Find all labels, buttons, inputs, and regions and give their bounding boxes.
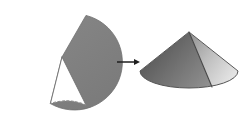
sector-to-cone-figure (0, 0, 252, 124)
arrow-head-icon (134, 59, 140, 65)
diagram-canvas: A shaded circle with a wedge-shaped sect… (0, 0, 252, 124)
right-figure-group (140, 32, 238, 89)
left-figure-group (50, 15, 122, 110)
